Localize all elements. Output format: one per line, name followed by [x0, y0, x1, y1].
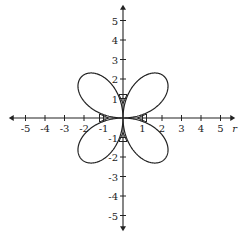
- y-tick-label: -3: [108, 172, 118, 183]
- x-tick-label: -5: [21, 123, 31, 134]
- x-tick-label: -2: [79, 123, 89, 134]
- y-axis-top-arrow-icon: [120, 5, 126, 10]
- y-tick-label: 2: [112, 74, 118, 85]
- y-tick-label: -5: [108, 211, 118, 222]
- x-axis-right-arrow-icon: [230, 115, 235, 121]
- x-tick-label: 1: [139, 123, 145, 134]
- y-tick-label: 5: [112, 16, 118, 27]
- y-axis-bottom-arrow-icon: [120, 226, 126, 231]
- y-tick-label: 3: [112, 55, 118, 66]
- x-axis-left-arrow-icon: [9, 115, 14, 121]
- x-tick-label: -1: [99, 123, 109, 134]
- y-tick-label: -4: [108, 191, 118, 202]
- x-tick-label: 3: [178, 123, 184, 134]
- polar-plot: -5-4-3-2-112345-5-4-3-2-112345 r: [0, 0, 241, 237]
- x-axis-label: r: [232, 123, 238, 134]
- x-tick-label: 5: [217, 123, 223, 134]
- x-tick-label: 4: [198, 123, 204, 134]
- y-tick-label: 4: [112, 35, 118, 46]
- x-tick-label: -4: [40, 123, 50, 134]
- x-tick-label: -3: [60, 123, 70, 134]
- y-tick-label: -1: [108, 133, 118, 144]
- y-tick-label: 1: [112, 94, 118, 105]
